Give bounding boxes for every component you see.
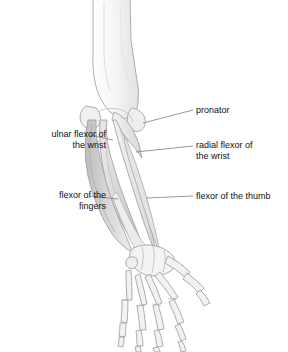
humerus-bone <box>93 0 139 118</box>
upper-arm-group <box>80 0 145 131</box>
middle-proximal-phalanx <box>153 304 164 330</box>
label-flexor-fingers: flexor of the fingers <box>59 190 106 212</box>
middle-distal-phalanx <box>153 347 160 352</box>
leader-pronator <box>143 110 193 123</box>
index-proximal-phalanx <box>169 299 184 324</box>
middle-middle-phalanx <box>154 330 163 347</box>
leader-flexor-thumb <box>146 196 193 198</box>
ring-middle-phalanx <box>136 330 143 346</box>
ring-proximal-phalanx <box>137 305 146 330</box>
thumb-proximal-phalanx <box>183 273 204 293</box>
label-ulnar-flexor: ulnar flexor of the wrist <box>51 129 106 151</box>
pisiform-bone <box>126 257 138 269</box>
little-distal-phalanx <box>118 337 124 347</box>
label-radial-flexor: radial flexor of the wrist <box>196 140 253 162</box>
thumb-distal-phalanx <box>196 290 210 306</box>
little-middle-phalanx <box>119 323 126 337</box>
leader-radial-flexor <box>136 146 193 152</box>
forearm-anatomy-illustration <box>0 0 288 352</box>
label-flexor-thumb: flexor of the thumb <box>196 191 271 202</box>
hand-skeleton-group <box>118 245 210 352</box>
metacarpal-4 <box>135 274 147 305</box>
metacarpal-5 <box>126 270 132 300</box>
index-middle-phalanx <box>175 324 186 341</box>
little-proximal-phalanx <box>121 300 128 323</box>
label-pronator: pronator <box>196 105 230 116</box>
index-distal-phalanx <box>178 341 186 352</box>
ring-distal-phalanx <box>135 346 141 352</box>
